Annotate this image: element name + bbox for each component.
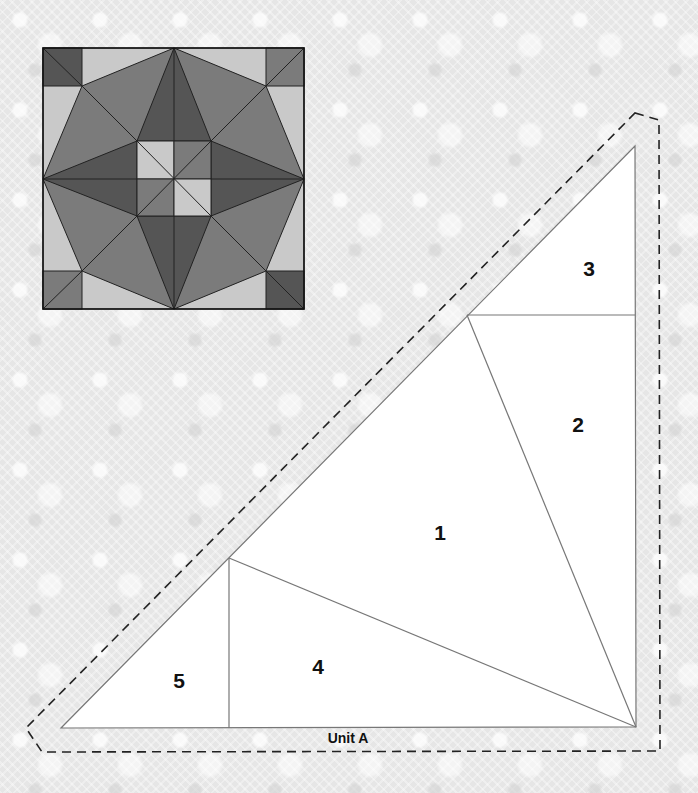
piece-label-4: 4 <box>312 655 324 678</box>
pattern-sheet: 1 2 3 4 5 Unit A <box>0 0 698 793</box>
piece-label-2: 2 <box>572 413 584 436</box>
quilt-block-preview <box>43 48 304 309</box>
unit-label: Unit A <box>328 730 369 746</box>
piece-label-3: 3 <box>583 257 595 280</box>
piece-label-5: 5 <box>173 669 185 692</box>
piece-label-1: 1 <box>434 521 446 544</box>
